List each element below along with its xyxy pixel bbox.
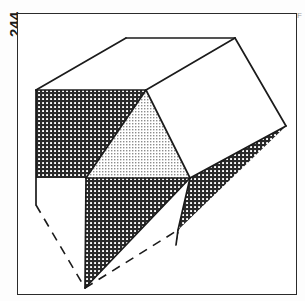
face-lower-left-white-wedge	[36, 178, 86, 205]
edge-center-vertical	[85, 178, 86, 288]
polyhedron-figure	[0, 0, 305, 301]
hidden-edge-left	[36, 205, 85, 288]
book-page: 244 F	[0, 0, 305, 301]
edge-right-lower-tail	[176, 230, 178, 245]
